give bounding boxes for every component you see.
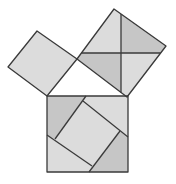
leg-b-square-dark-piece-0	[121, 14, 166, 53]
diagram-fills	[8, 9, 166, 172]
leg-a-square-fill	[8, 31, 77, 96]
pythagorean-diagram	[0, 0, 176, 184]
leg-b-square-dark-piece-1	[77, 53, 121, 92]
